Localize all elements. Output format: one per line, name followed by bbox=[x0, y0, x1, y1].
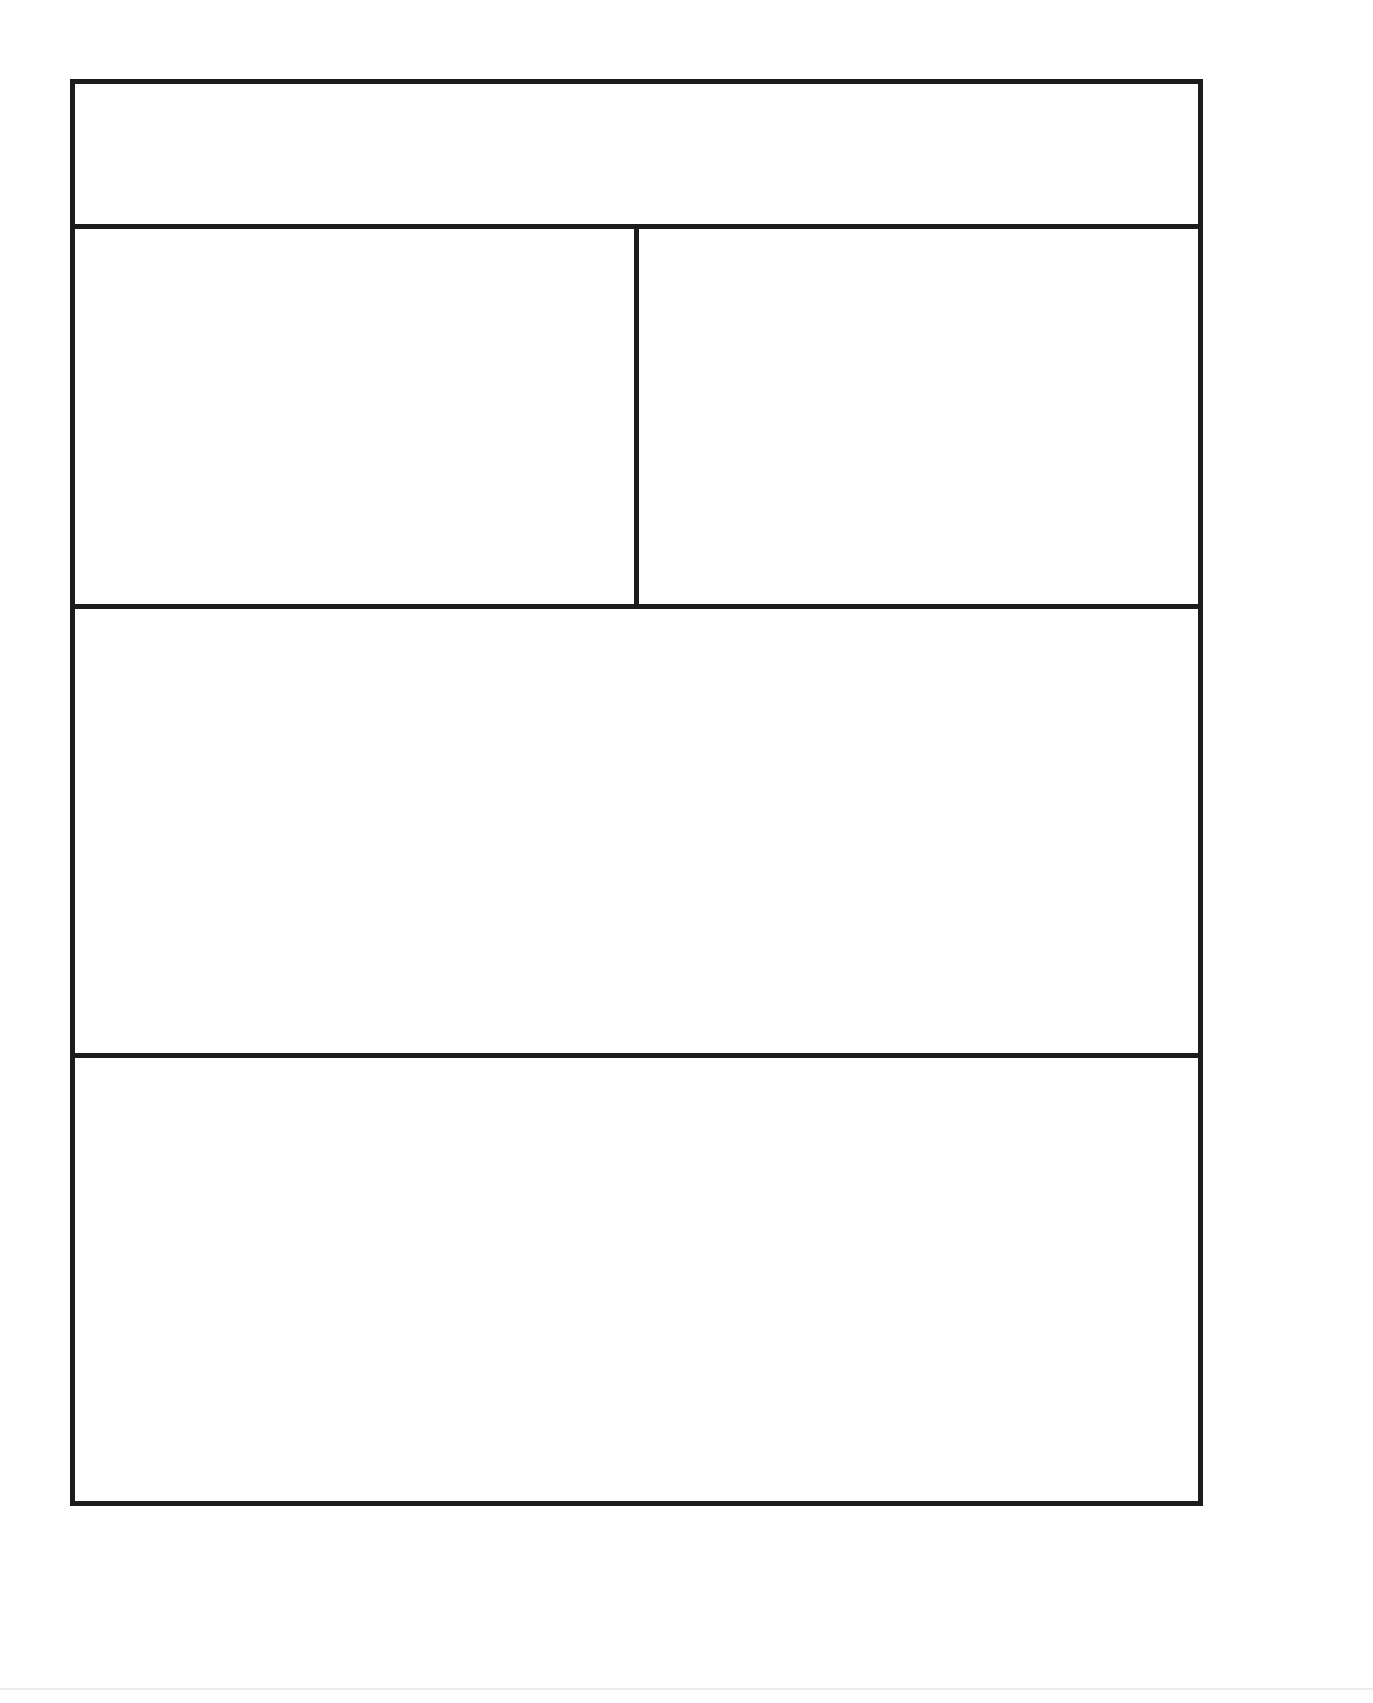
page-edge-strip bbox=[0, 1688, 1373, 1690]
row1-left-panel bbox=[75, 229, 634, 604]
row1-right-panel bbox=[639, 229, 1198, 604]
header-panel bbox=[75, 84, 1198, 226]
row3-panel bbox=[75, 1058, 1198, 1501]
row2-panel bbox=[75, 609, 1198, 1053]
